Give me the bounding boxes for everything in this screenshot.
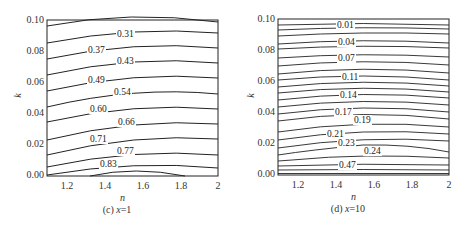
y-tick-label: 0.08 — [235, 44, 275, 55]
contour-label: 0.66 — [117, 117, 136, 127]
contour-label: 0.83 — [99, 159, 118, 169]
y-tick-label: 0.00 — [4, 169, 44, 180]
y-tick-label: 0.10 — [4, 14, 44, 25]
contour-label: 0.11 — [341, 72, 359, 82]
y-tick-label: 0.02 — [235, 137, 275, 148]
x-tick-label: 1.6 — [359, 179, 389, 190]
y-tick-label: 0.10 — [235, 13, 275, 24]
x-axis-label: n — [120, 192, 125, 203]
contour-label: 0.07 — [337, 53, 356, 63]
contour-label: 0.71 — [89, 134, 108, 144]
contour-label: 0.37 — [87, 45, 106, 55]
y-tick-label: 0.02 — [4, 138, 44, 149]
caption-value: =1 — [121, 204, 132, 215]
y-axis-label: k — [245, 93, 256, 97]
contour-label: 0.43 — [116, 56, 135, 66]
caption-prefix: (d) — [331, 203, 345, 214]
contour-label: 0.60 — [89, 104, 108, 114]
y-tick-label: 0.04 — [4, 107, 44, 118]
contour-label: 0.77 — [116, 146, 135, 156]
y-tick-label: 0.08 — [4, 45, 44, 56]
chart-panel-d: 0.01 0.04 0.07 0.11 0.14 0.17 0.19 0.21 … — [230, 0, 460, 228]
y-tick-label: 0.04 — [235, 106, 275, 117]
x-tick-label: 1.2 — [283, 179, 313, 190]
contour-label: 0.04 — [337, 37, 356, 47]
y-tick-label: 0.00 — [235, 168, 275, 179]
x-tick-label: 1.2 — [52, 180, 82, 191]
contour-label: 0.01 — [336, 20, 355, 30]
x-tick-label: 2 — [434, 179, 460, 190]
contour-label: 0.54 — [113, 87, 132, 97]
x-tick-label: 1.8 — [166, 180, 196, 191]
y-tick-label: 0.06 — [235, 75, 275, 86]
contour-label: 0.14 — [339, 90, 358, 100]
x-tick-label: 1.8 — [397, 179, 427, 190]
x-tick-label: 1.4 — [90, 180, 120, 191]
contour-label: 0.19 — [353, 115, 372, 125]
caption-d: (d) x=10 — [248, 203, 448, 214]
caption-c: (c) x=1 — [17, 204, 217, 215]
contour-label: 0.24 — [363, 146, 382, 156]
contour-label: 0.23 — [337, 138, 356, 148]
x-tick-label: 1.6 — [128, 180, 158, 191]
contour-label: 0.31 — [116, 29, 135, 39]
y-axis-label: k — [12, 93, 23, 97]
caption-prefix: (c) — [103, 204, 117, 215]
contour-label: 0.47 — [338, 160, 357, 170]
y-tick-label: 0.06 — [4, 76, 44, 87]
contour-label: 0.17 — [334, 107, 353, 117]
x-tick-label: 1.4 — [321, 179, 351, 190]
x-axis-label: n — [351, 191, 356, 202]
chart-panel-c: 0.31 0.37 0.43 0.49 0.54 0.60 0.66 0.71 … — [0, 0, 230, 228]
x-tick-label: 2 — [203, 180, 233, 191]
contour-label: 0.49 — [87, 75, 106, 85]
caption-value: =10 — [349, 203, 365, 214]
